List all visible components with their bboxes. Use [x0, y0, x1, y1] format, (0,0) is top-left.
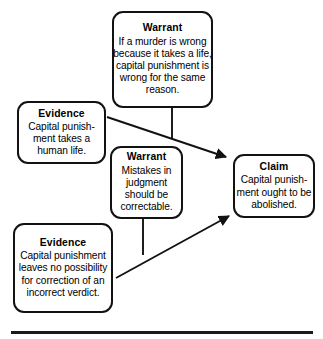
node-warrant-mistakes-title: Warrant [127, 151, 167, 163]
node-evidence-verdict[interactable]: Evidence Capital punishment leaves no po… [13, 223, 113, 313]
node-warrant-top-line-4: wrong for the same [113, 72, 211, 84]
node-evidence-verdict-line-4: incorrect verdict. [19, 287, 108, 299]
node-evidence-life-body: Capital punish- ment takes a human life. [28, 121, 94, 158]
node-evidence-life-line-2: ment takes a [28, 133, 94, 145]
edge-evidence-verdict-to-claim [116, 216, 229, 278]
diagram-canvas: Warrant If a murder is wrong because it … [0, 0, 323, 339]
node-warrant-top-title: Warrant [143, 22, 183, 34]
node-claim-body: Capital punish- ment ought to be abolish… [237, 174, 312, 211]
node-warrant-mistakes-body: Mistakes in judgment should be correctab… [120, 165, 172, 214]
node-claim[interactable]: Claim Capital punish- ment ought to be a… [233, 154, 315, 218]
node-warrant-mistakes-line-4: correctable. [120, 201, 172, 213]
node-evidence-life-line-1: Capital punish- [28, 121, 94, 133]
node-evidence-life[interactable]: Evidence Capital punish- ment takes a hu… [17, 101, 106, 164]
node-evidence-verdict-line-3: for correction of an [19, 275, 108, 287]
node-claim-line-3: abolished. [237, 199, 312, 211]
node-claim-line-2: ment ought to be [237, 187, 312, 199]
node-evidence-life-line-3: human life. [28, 145, 94, 157]
node-warrant-top-line-2: because it takes a life, [113, 48, 211, 60]
node-evidence-life-title: Evidence [38, 108, 84, 120]
node-claim-line-1: Capital punish- [237, 174, 312, 186]
node-warrant-top-line-1: If a murder is wrong [113, 36, 211, 48]
node-warrant-mistakes-line-1: Mistakes in [120, 165, 172, 177]
node-warrant-top-body: If a murder is wrong because it takes a … [113, 36, 211, 97]
node-evidence-verdict-line-2: leaves no possibility [19, 262, 108, 274]
node-warrant-mistakes-line-3: should be [120, 189, 172, 201]
node-warrant-mistakes[interactable]: Warrant Mistakes in judgment should be c… [110, 146, 183, 219]
node-warrant-top-line-5: reason. [113, 84, 211, 96]
node-warrant-top[interactable]: Warrant If a murder is wrong because it … [112, 11, 213, 108]
node-evidence-verdict-title: Evidence [40, 237, 86, 249]
node-evidence-verdict-line-1: Capital punishment [19, 250, 108, 262]
node-warrant-mistakes-line-2: judgment [120, 177, 172, 189]
node-warrant-top-line-3: capital punishment is [113, 60, 211, 72]
node-claim-title: Claim [260, 161, 289, 173]
node-evidence-verdict-body: Capital punishment leaves no possibility… [19, 250, 108, 299]
